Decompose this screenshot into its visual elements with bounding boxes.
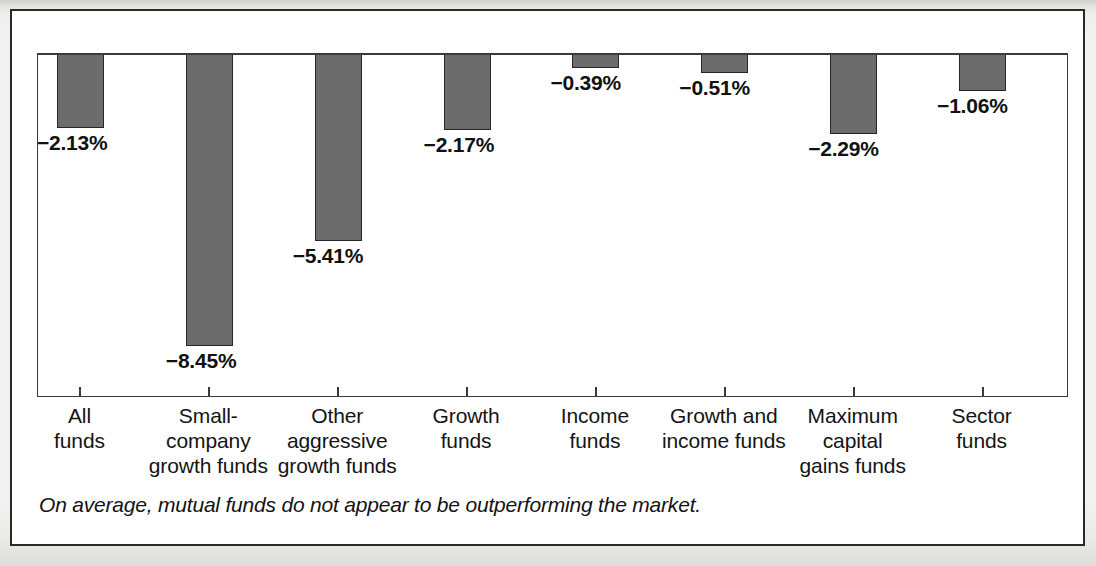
x-axis-label-line: gains funds <box>800 454 906 477</box>
x-axis-tick-4 <box>595 387 597 396</box>
x-axis-label-line: funds <box>54 429 105 452</box>
x-axis-label-line: aggressive <box>287 429 388 452</box>
x-axis-label-line: capital <box>823 429 883 452</box>
x-axis-tick-2 <box>337 387 339 396</box>
x-axis-tick-5 <box>724 387 726 396</box>
x-axis-label-6: Maximumcapitalgains funds <box>788 403 917 478</box>
x-axis-label-3: Growthfunds <box>402 403 531 453</box>
bar-value-label-2: −5.41% <box>293 244 364 268</box>
x-axis-tick-0 <box>79 387 81 396</box>
figure-frame: −2.13% −8.45% −5.41% −2.17% −0.39% −0.51… <box>10 9 1085 546</box>
bar-value-label-3: −2.17% <box>424 133 495 157</box>
x-axis-label-line: Small-company <box>166 404 251 452</box>
bar-1[interactable] <box>186 55 233 346</box>
figure-caption: On average, mutual funds do not appear t… <box>39 493 701 517</box>
x-axis-label-line: Other <box>311 404 363 427</box>
x-axis-label-2: Otheraggressivegrowth funds <box>273 403 402 478</box>
x-axis-label-line: Growth <box>433 404 500 427</box>
x-axis-label-line: growth funds <box>149 454 268 477</box>
x-axis-label-line: growth funds <box>278 454 397 477</box>
x-axis-label-4: Incomefunds <box>531 403 660 453</box>
x-axis-label-line: Growth and <box>670 404 778 427</box>
x-axis-label-line: funds <box>956 429 1007 452</box>
bar-3[interactable] <box>444 55 491 130</box>
bar-7[interactable] <box>959 55 1006 91</box>
bar-5[interactable] <box>701 55 748 73</box>
x-axis-label-line: All <box>68 404 91 427</box>
bar-value-label-5: −0.51% <box>679 76 750 100</box>
x-axis-tick-1 <box>208 387 210 396</box>
x-axis-tick-3 <box>466 387 468 396</box>
x-axis-label-line: funds <box>441 429 492 452</box>
x-axis-label-line: funds <box>570 429 621 452</box>
bar-0[interactable] <box>57 55 104 128</box>
bar-value-label-4: −0.39% <box>550 71 621 95</box>
bar-value-label-1: −8.45% <box>166 349 237 373</box>
x-axis-tick-7 <box>982 387 984 396</box>
x-axis-tick-6 <box>853 387 855 396</box>
x-axis-label-line: Income <box>561 404 629 427</box>
bar-4[interactable] <box>572 55 619 68</box>
bar-6[interactable] <box>830 55 877 134</box>
x-axis-label-1: Small-companygrowth funds <box>144 403 273 478</box>
x-axis-label-line: Maximum <box>808 404 898 427</box>
bar-value-label-7: −1.06% <box>937 94 1008 118</box>
bar-value-label-0: −2.13% <box>37 131 108 155</box>
bar-2[interactable] <box>315 55 362 241</box>
scan-page-background: −2.13% −8.45% −5.41% −2.17% −0.39% −0.51… <box>0 0 1096 566</box>
x-axis-label-line: Sector <box>952 404 1012 427</box>
bar-value-label-6: −2.29% <box>808 137 879 161</box>
x-axis-label-0: Allfunds <box>15 403 144 453</box>
x-axis-label-5: Growth andincome funds <box>659 403 788 453</box>
x-axis-label-7: Sectorfunds <box>917 403 1046 453</box>
chart-plot-area: −2.13% −8.45% −5.41% −2.17% −0.39% −0.51… <box>37 53 1068 397</box>
x-axis-label-line: income funds <box>662 429 786 452</box>
x-axis-category-labels: Allfunds Small-companygrowth funds Other… <box>37 403 1068 485</box>
